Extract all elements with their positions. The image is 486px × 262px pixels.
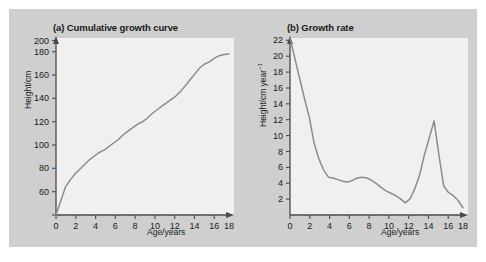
chart-a-xtick-10: 10 xyxy=(150,221,160,231)
chart-a-ytick-180: 180 xyxy=(34,47,49,57)
chart-a-ytick-120: 120 xyxy=(34,117,49,127)
chart-b-ytick-18: 18 xyxy=(273,67,283,77)
chart-b-growth-rate: (b) Growth rate Height/cm year−1 Age/yea… xyxy=(243,9,477,247)
chart-b-ytick-2: 2 xyxy=(278,194,283,204)
chart-b-ytick-22: 22 xyxy=(273,35,283,45)
chart-a-plot: 60 80 100 120 140 160 180 200 xyxy=(9,9,243,247)
chart-a-xtick-6: 6 xyxy=(113,221,118,231)
chart-a-ytick-80: 80 xyxy=(39,163,49,173)
chart-b-xtick-14: 14 xyxy=(423,221,433,231)
chart-b-ytick-12: 12 xyxy=(273,115,283,125)
chart-a-xtick-4: 4 xyxy=(93,221,98,231)
chart-a-x-axis: 0 2 4 6 8 10 12 14 16 18 xyxy=(53,212,234,231)
chart-a-xtick-8: 8 xyxy=(133,221,138,231)
chart-b-ytick-14: 14 xyxy=(273,99,283,109)
chart-b-ytick-6: 6 xyxy=(278,162,283,172)
chart-a-xtick-16: 16 xyxy=(209,221,219,231)
chart-b-xtick-0: 0 xyxy=(287,221,292,231)
chart-b-plot-background xyxy=(290,38,468,215)
figure-panel: (a) Cumulative growth curve Height/cm Ag… xyxy=(9,9,477,247)
chart-b-y-axis: 2 4 6 8 10 12 14 16 18 20 22 xyxy=(273,35,293,215)
chart-a-y-axis: 60 80 100 120 140 160 180 200 xyxy=(34,36,59,216)
chart-b-xtick-8: 8 xyxy=(367,221,372,231)
chart-b-xtick-18: 18 xyxy=(458,221,468,231)
chart-b-xtick-2: 2 xyxy=(307,221,312,231)
chart-a-xtick-18: 18 xyxy=(224,221,234,231)
chart-b-plot: 2 4 6 8 10 12 14 16 18 20 22 xyxy=(243,9,477,247)
chart-b-ytick-10: 10 xyxy=(273,131,283,141)
chart-a-ytick-140: 140 xyxy=(34,93,49,103)
chart-b-xtick-10: 10 xyxy=(384,221,394,231)
chart-a-cumulative-growth-curve: (a) Cumulative growth curve Height/cm Ag… xyxy=(9,9,243,247)
chart-b-ytick-16: 16 xyxy=(273,83,283,93)
chart-b-xtick-16: 16 xyxy=(443,221,453,231)
chart-a-xtick-2: 2 xyxy=(73,221,78,231)
chart-b-ytick-20: 20 xyxy=(273,51,283,61)
chart-b-ytick-8: 8 xyxy=(278,147,283,157)
chart-b-xtick-12: 12 xyxy=(404,221,414,231)
chart-a-ytick-200: 200 xyxy=(34,36,49,46)
chart-a-ytick-60: 60 xyxy=(39,187,49,197)
chart-a-plot-background xyxy=(56,38,234,215)
chart-a-ytick-100: 100 xyxy=(34,140,49,150)
chart-a-xtick-12: 12 xyxy=(170,221,180,231)
chart-a-ytick-160: 160 xyxy=(34,70,49,80)
chart-b-ytick-4: 4 xyxy=(278,178,283,188)
chart-b-xtick-4: 4 xyxy=(327,221,332,231)
chart-a-xtick-14: 14 xyxy=(189,221,199,231)
chart-b-xtick-6: 6 xyxy=(347,221,352,231)
chart-a-xtick-0: 0 xyxy=(53,221,58,231)
chart-b-x-axis: 0 2 4 6 8 10 12 14 16 18 xyxy=(287,212,468,231)
